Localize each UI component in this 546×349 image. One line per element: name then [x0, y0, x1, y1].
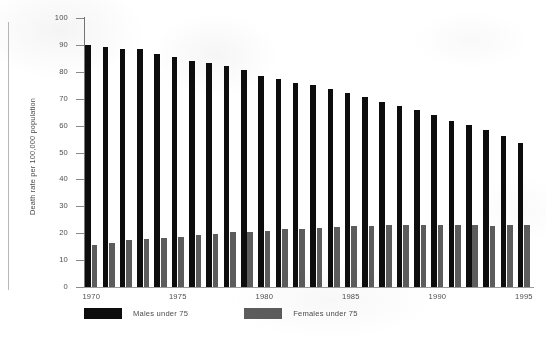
- bar-group: [518, 18, 535, 287]
- bar-group: [483, 18, 500, 287]
- legend-label-males: Males under 75: [133, 309, 188, 318]
- legend-swatch-males-icon: [84, 308, 122, 319]
- y-axis-tick: [76, 45, 84, 46]
- bar-group: [154, 18, 171, 287]
- x-axis-tick-label: 1985: [331, 292, 371, 301]
- bar-group: [501, 18, 518, 287]
- bar-males: [103, 47, 109, 287]
- y-axis-tick: [76, 287, 84, 288]
- bar-females: [299, 229, 305, 287]
- y-axis-tick: [76, 153, 84, 154]
- bar-females: [213, 234, 219, 287]
- bar-males: [431, 115, 437, 287]
- plot-area: [84, 18, 534, 287]
- y-axis-tick-label: 90: [8, 40, 68, 49]
- bar-females: [317, 228, 323, 287]
- legend-item-females: Females under 75: [244, 308, 357, 319]
- bar-group: [137, 18, 154, 287]
- page-edge-line: [8, 22, 9, 290]
- bar-males: [345, 93, 351, 287]
- bar-males: [172, 57, 178, 287]
- bar-females: [334, 227, 340, 287]
- y-axis-tick-label: 10: [8, 255, 68, 264]
- bar-females: [438, 225, 444, 287]
- bar-females: [490, 226, 496, 287]
- y-axis-tick-label: 70: [8, 94, 68, 103]
- bar-males: [518, 143, 524, 287]
- y-axis-tick: [76, 18, 84, 19]
- bar-males: [137, 49, 143, 287]
- bar-males: [189, 61, 195, 287]
- legend-swatch-females-icon: [244, 308, 282, 319]
- bar-females: [455, 225, 461, 287]
- bar-females: [178, 237, 184, 287]
- x-axis-tick-label: 1975: [158, 292, 198, 301]
- legend-item-males: Males under 75: [84, 308, 188, 319]
- bar-group: [120, 18, 137, 287]
- bar-females: [403, 225, 409, 287]
- bar-group: [189, 18, 206, 287]
- bar-females: [351, 226, 357, 287]
- y-axis-tick: [76, 72, 84, 73]
- bar-group: [276, 18, 293, 287]
- bar-males: [224, 66, 230, 287]
- bar-males: [483, 130, 489, 287]
- bar-females: [472, 225, 478, 287]
- bar-females: [421, 225, 427, 287]
- bar-males: [206, 63, 212, 287]
- y-axis-tick: [76, 99, 84, 100]
- bar-females: [144, 239, 150, 287]
- bar-females: [282, 229, 288, 287]
- bar-females: [369, 226, 375, 287]
- y-axis-tick: [76, 206, 84, 207]
- bar-females: [386, 225, 392, 287]
- bar-females: [196, 235, 202, 287]
- bar-males: [328, 89, 334, 287]
- legend-label-females: Females under 75: [293, 309, 357, 318]
- bar-males: [293, 83, 299, 287]
- y-axis-tick-label: 80: [8, 67, 68, 76]
- bar-group: [328, 18, 345, 287]
- bar-group: [85, 18, 102, 287]
- x-axis-tick-label: 1970: [71, 292, 111, 301]
- y-axis-tick-label: 50: [8, 148, 68, 157]
- y-axis-tick-label: 60: [8, 121, 68, 130]
- bar-females: [161, 238, 167, 287]
- bar-group: [241, 18, 258, 287]
- bar-females: [126, 240, 132, 287]
- y-axis-tick-label: 0: [8, 282, 68, 291]
- bar-males: [85, 45, 91, 287]
- y-axis-tick: [76, 126, 84, 127]
- x-axis-line: [84, 287, 534, 288]
- bar-group: [362, 18, 379, 287]
- x-axis-tick-label: 1990: [417, 292, 457, 301]
- bar-males: [310, 85, 316, 287]
- y-axis-tick: [76, 260, 84, 261]
- bar-females: [230, 232, 236, 287]
- bar-males: [379, 102, 385, 287]
- bar-males: [414, 110, 420, 287]
- bar-males: [362, 97, 368, 287]
- x-axis-tick-label: 1995: [504, 292, 544, 301]
- bar-group: [414, 18, 431, 287]
- bar-group: [103, 18, 120, 287]
- bar-males: [276, 79, 282, 287]
- y-axis-tick-label: 30: [8, 201, 68, 210]
- bar-males: [154, 54, 160, 287]
- bar-females: [507, 225, 513, 287]
- y-axis-tick-label: 20: [8, 228, 68, 237]
- y-axis-tick-label: 40: [8, 174, 68, 183]
- bar-males: [241, 70, 247, 287]
- y-axis-tick-label: 100: [8, 13, 68, 22]
- bar-chart: Death rate per 100,000 population 010203…: [0, 0, 546, 349]
- bar-females: [92, 245, 98, 287]
- bar-group: [206, 18, 223, 287]
- bar-males: [501, 136, 507, 287]
- y-axis-tick: [76, 233, 84, 234]
- bar-males: [258, 76, 264, 287]
- bar-group: [431, 18, 448, 287]
- y-axis-line: [84, 17, 85, 288]
- bar-females: [247, 232, 253, 287]
- bar-group: [172, 18, 189, 287]
- bar-group: [345, 18, 362, 287]
